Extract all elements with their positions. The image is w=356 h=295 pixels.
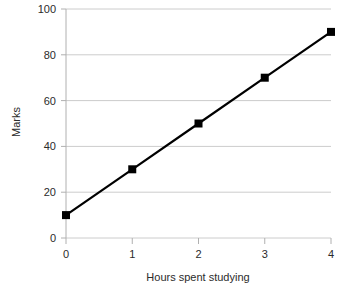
- y-axis-title: Marks: [10, 107, 22, 137]
- data-point-marker: [128, 165, 136, 173]
- x-tick-label: 4: [328, 248, 334, 260]
- x-tick-label: 0: [63, 248, 69, 260]
- x-axis-tick-labels: 01234: [63, 248, 334, 260]
- y-tick-label: 60: [44, 95, 56, 107]
- data-point-marker: [327, 28, 335, 36]
- y-tick-label: 40: [44, 140, 56, 152]
- x-axis-title: Hours spent studying: [146, 271, 249, 283]
- y-tick-label: 0: [50, 232, 56, 244]
- x-tick-label: 3: [262, 248, 268, 260]
- data-point-marker: [261, 74, 269, 82]
- y-tick-label: 100: [38, 3, 56, 15]
- y-tick-label: 80: [44, 49, 56, 61]
- y-axis-ticks: [61, 9, 66, 238]
- x-axis-ticks: [66, 238, 331, 244]
- y-axis-tick-labels: 020406080100: [38, 3, 56, 244]
- x-tick-label: 1: [129, 248, 135, 260]
- data-point-marker: [195, 120, 203, 128]
- y-tick-label: 20: [44, 186, 56, 198]
- x-tick-label: 2: [195, 248, 201, 260]
- line-chart: 020406080100 01234 Hours spent studying …: [0, 0, 356, 295]
- chart-container: 020406080100 01234 Hours spent studying …: [0, 0, 356, 295]
- data-point-marker: [62, 211, 70, 219]
